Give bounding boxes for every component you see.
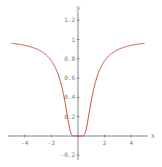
- x-tick-label: 4: [129, 139, 133, 146]
- y-axis: -0.20.20.40.60.811.2 y: [61, 4, 81, 160]
- y-tick-label: 0.2: [64, 113, 75, 120]
- x-tick-label: -2: [48, 139, 56, 146]
- y-tick-label: -0.2: [61, 151, 76, 158]
- y-tick-label: 1: [71, 36, 75, 43]
- x-tick-label: -4: [21, 139, 29, 146]
- y-tick-label: 1.2: [64, 16, 75, 23]
- y-tick-label: 0.4: [64, 93, 75, 100]
- y-axis-label: y: [75, 4, 81, 12]
- x-axis-label: x: [151, 132, 155, 140]
- x-tick-label: 2: [103, 139, 107, 146]
- y-tick-label: 0.6: [64, 74, 75, 81]
- chart-plot: -4-224 x -0.20.20.40.60.811.2 y: [0, 0, 162, 167]
- y-tick-label: 0.8: [64, 55, 75, 62]
- x-axis: -4-224 x: [8, 132, 155, 146]
